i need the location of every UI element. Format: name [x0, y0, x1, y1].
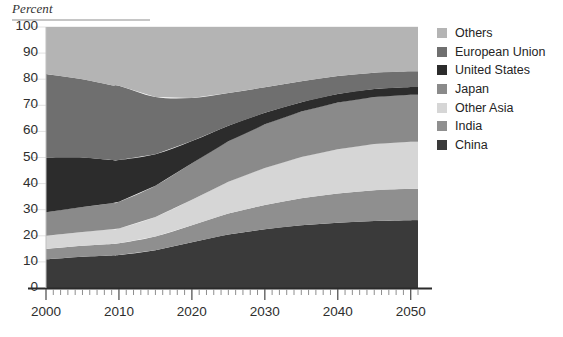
x-tick-label: 2040 — [312, 304, 364, 319]
legend-swatch-icon — [437, 121, 447, 131]
y-tick-label: 70 — [2, 96, 38, 111]
x-tick-label: 2000 — [20, 304, 72, 319]
y-tick-label: 40 — [2, 175, 38, 190]
legend-swatch-icon — [437, 65, 447, 75]
y-axis-title: Percent — [12, 1, 53, 17]
legend-label: United States — [455, 63, 530, 77]
legend-item[interactable]: Japan — [437, 80, 563, 99]
y-tick-label: 0 — [2, 279, 38, 294]
legend-item[interactable]: Other Asia — [437, 98, 563, 117]
y-tick-label: 10 — [2, 253, 38, 268]
legend-swatch-icon — [437, 103, 447, 113]
legend-swatch-icon — [437, 140, 447, 150]
x-tick-label: 2050 — [385, 304, 437, 319]
chart-legend: OthersEuropean UnionUnited StatesJapanOt… — [437, 24, 563, 154]
y-tick-label: 30 — [2, 201, 38, 216]
legend-label: European Union — [455, 45, 545, 59]
x-tick-label: 2020 — [166, 304, 218, 319]
y-tick-label: 50 — [2, 149, 38, 164]
legend-label: China — [455, 138, 488, 152]
x-tick-label: 2010 — [93, 304, 145, 319]
legend-swatch-icon — [437, 28, 447, 38]
legend-label: Others — [455, 26, 493, 40]
y-tick-label: 90 — [2, 44, 38, 59]
legend-item[interactable]: Others — [437, 24, 563, 43]
y-tick-label: 80 — [2, 70, 38, 85]
legend-label: Japan — [455, 82, 489, 96]
y-tick-label: 100 — [2, 18, 38, 33]
x-axis-ticks — [46, 289, 418, 300]
legend-swatch-icon — [437, 47, 447, 57]
legend-swatch-icon — [437, 84, 447, 94]
legend-label: India — [455, 119, 482, 133]
legend-item[interactable]: United States — [437, 61, 563, 80]
legend-item[interactable]: China — [437, 136, 563, 155]
chart-container: Percent 0102030405060708090100 200020102… — [0, 0, 563, 337]
legend-item[interactable]: India — [437, 117, 563, 136]
legend-item[interactable]: European Union — [437, 43, 563, 62]
legend-label: Other Asia — [455, 101, 513, 115]
y-tick-label: 60 — [2, 122, 38, 137]
area-series-group — [46, 27, 418, 288]
x-tick-label: 2030 — [239, 304, 291, 319]
y-tick-label: 20 — [2, 227, 38, 242]
